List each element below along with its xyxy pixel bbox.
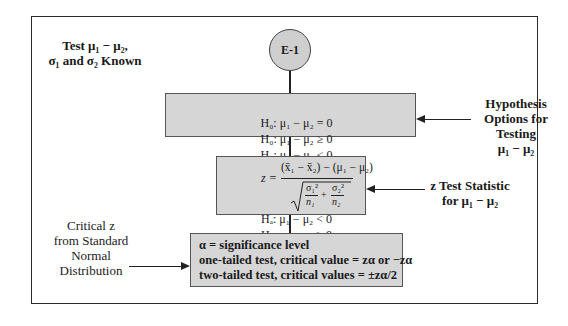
statistic-arrow-line	[375, 189, 425, 190]
n2: n₂	[332, 196, 340, 207]
hypothesis-annotation-line-3: Testing	[470, 126, 562, 141]
critical-line-1: α = significance level	[199, 238, 394, 253]
statistic-annotation-line-1: z Test Statistic	[420, 178, 520, 193]
title-label: Test μ₁ − μ₂, σ₁ and σ₂ Known	[40, 38, 150, 68]
critical-arrowhead-icon	[181, 262, 190, 270]
critical-arrow-line	[129, 266, 182, 267]
hypothesis-two-tailed-null: H₀: μ₁ − μ₂ = 0	[261, 115, 333, 131]
sigma2-squared: σ₂²	[332, 182, 344, 193]
statistic-annotation: z Test Statistic for μ₁ − μ₂	[420, 178, 520, 208]
title-line-1: Test μ₁ − μ₂,	[40, 38, 150, 53]
hypothesis-annotation-line-2: Options for	[470, 111, 562, 126]
start-node: E-1	[269, 29, 311, 71]
plus-sign: +	[321, 189, 327, 200]
hypothesis-annotation-line-1: Hypothesis	[470, 96, 562, 111]
formula-lhs: z =	[261, 171, 277, 186]
n1: n₁	[306, 196, 314, 207]
critical-annotation-line-1: Critical z	[45, 218, 137, 233]
hypothesis-arrow-line	[425, 119, 471, 120]
hypothesis-lower-tailed-null: H₀: μ₁ − μ₂ ≥ 0	[261, 131, 333, 147]
title-line-2: σ₁ and σ₂ Known	[40, 53, 150, 68]
critical-annotation-line-2: from Standard	[45, 233, 137, 248]
statistic-annotation-line-2: for μ₁ − μ₂	[420, 193, 520, 208]
critical-annotation-line-3: Normal	[45, 248, 137, 263]
hypothesis-arrowhead-icon	[416, 115, 425, 123]
critical-line-2: one-tailed test, critical value = zα or …	[199, 253, 394, 268]
critical-annotation-line-4: Distribution	[45, 263, 137, 278]
critical-value-box: α = significance level one-tailed test, …	[190, 233, 403, 287]
critical-line-3: two-tailed test, critical values = ±zα/2	[199, 268, 394, 283]
critical-annotation: Critical z from Standard Normal Distribu…	[45, 218, 137, 278]
hypothesis-box: H₀: μ₁ − μ₂ = 0 H₀: μ₁ − μ₂ ≥ 0 H₀: μ₁ −…	[165, 93, 416, 137]
sigma1-squared: σ₁²	[306, 182, 318, 193]
test-statistic-box: z = (x̄₁ − x̄₂) − (μ₁ − μ₂) σ₁² n₁ + σ₂²…	[216, 156, 366, 215]
statistic-arrowhead-icon	[366, 185, 375, 193]
connector-circle-to-hypothesis	[289, 71, 291, 93]
formula-numerator: (x̄₁ − x̄₂) − (μ₁ − μ₂)	[281, 161, 373, 173]
hypothesis-annotation-line-4: μ₁ − μ₂	[470, 141, 562, 156]
hypothesis-annotation: Hypothesis Options for Testing μ₁ − μ₂	[470, 96, 562, 156]
start-node-label: E-1	[281, 43, 299, 58]
